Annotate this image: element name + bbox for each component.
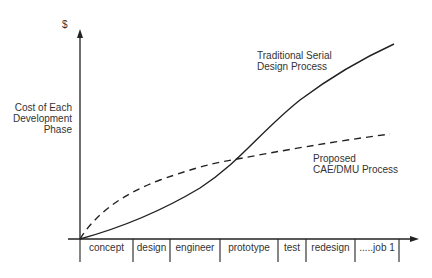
y-axis-label-line: Development — [10, 113, 72, 124]
series-traditional-serial — [80, 44, 394, 239]
annotation-line: Design Process — [257, 61, 332, 72]
phase-label-test: test — [278, 242, 306, 253]
y-axis-label-line: Cost of Each — [10, 102, 72, 113]
x-axis-arrow-icon — [410, 236, 419, 242]
phase-label-job1: .....job 1 — [355, 242, 399, 253]
annotation-line: Traditional Serial — [257, 50, 332, 61]
phase-label-prototype: prototype — [220, 242, 278, 253]
annotation-traditional: Traditional Serial Design Process — [257, 50, 332, 72]
y-axis-arrow-icon — [77, 29, 83, 38]
annotation-line: CAE/DMU Process — [313, 164, 398, 175]
y-axis-label-line: Phase — [10, 124, 72, 135]
annotation-line: Proposed — [313, 153, 398, 164]
phase-label-design: design — [133, 242, 170, 253]
chart-canvas — [0, 0, 432, 278]
y-axis-label: Cost of Each Development Phase — [10, 102, 72, 135]
y-unit-label: $ — [62, 19, 68, 30]
phase-label-concept: concept — [80, 242, 133, 253]
phase-label-redesign: redesign — [306, 242, 355, 253]
annotation-proposed: Proposed CAE/DMU Process — [313, 153, 398, 175]
phase-label-engineer: engineer — [170, 242, 220, 253]
